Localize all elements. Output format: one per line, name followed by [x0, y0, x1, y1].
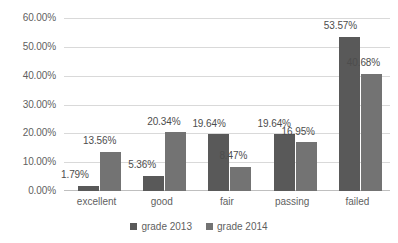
plot-area: 1.79% 13.56% 5.36% 20.34% 19.64% 8.47% 1… — [64, 18, 390, 191]
bar-2014[interactable] — [165, 132, 186, 191]
bar-value-label: 53.57% — [324, 21, 357, 31]
bar-value-label: 1.79% — [61, 170, 89, 180]
bar-2014[interactable] — [100, 152, 121, 191]
y-axis-tick-label: 60.00% — [23, 13, 56, 23]
bar-2014[interactable] — [230, 167, 251, 191]
bar-2014[interactable] — [296, 142, 317, 191]
y-axis-tick-label: 50.00% — [23, 42, 56, 52]
x-axis-category-label: failed — [325, 196, 390, 208]
bar-value-label: 20.34% — [147, 117, 180, 127]
x-axis-category-labels: excellent good fair passing failed — [64, 196, 390, 212]
legend-swatch-icon — [206, 223, 213, 230]
x-axis-category-label: good — [129, 196, 194, 208]
bar-2013[interactable] — [78, 186, 99, 191]
bar-2014[interactable] — [361, 74, 382, 191]
x-axis-category-label: fair — [194, 196, 259, 208]
y-axis-tick-label: 0.00% — [28, 186, 56, 196]
bar-group: 5.36% 20.34% — [129, 18, 194, 191]
bar-value-label: 13.56% — [83, 136, 116, 146]
bar-group: 19.64% 8.47% — [194, 18, 259, 191]
bar-value-label: 40.68% — [347, 58, 380, 68]
x-axis-category-label: excellent — [64, 196, 129, 208]
x-axis-category-label: passing — [260, 196, 325, 208]
y-axis-tick-label: 10.00% — [23, 157, 56, 167]
legend-item-grade-2014[interactable]: grade 2014 — [206, 221, 268, 232]
legend-label: grade 2013 — [141, 221, 192, 232]
legend-item-grade-2013[interactable]: grade 2013 — [130, 221, 192, 232]
bar-value-label: 8.47% — [219, 151, 247, 161]
y-axis-tick-label: 40.00% — [23, 71, 56, 81]
y-axis-tick-label: 20.00% — [23, 128, 56, 138]
bar-value-label: 16.95% — [282, 127, 315, 137]
legend-swatch-icon — [130, 223, 137, 230]
y-axis-tick-label: 30.00% — [23, 100, 56, 110]
bar-value-label: 19.64% — [192, 119, 225, 129]
bar-2013[interactable] — [274, 134, 295, 191]
bar-2013[interactable] — [143, 176, 164, 192]
bar-group: 53.57% 40.68% — [325, 18, 390, 191]
bar-value-label: 5.36% — [128, 160, 156, 170]
chart-legend: grade 2013 grade 2014 — [0, 221, 398, 232]
bar-group: 19.64% 16.95% — [260, 18, 325, 191]
bar-chart: 60.00% 50.00% 40.00% 30.00% 20.00% 10.00… — [0, 0, 398, 243]
legend-label: grade 2014 — [217, 221, 268, 232]
bar-group: 1.79% 13.56% — [64, 18, 129, 191]
bar-2013[interactable] — [208, 134, 229, 191]
